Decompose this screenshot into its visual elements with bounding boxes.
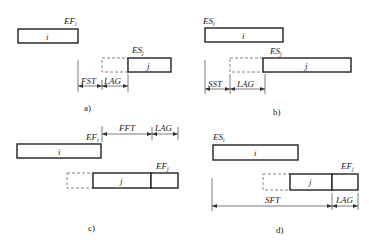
panel-a: i EFi j ESj FST LAG a) <box>18 16 171 113</box>
es-j-label: ESj <box>269 46 282 57</box>
caption-a: a) <box>84 103 91 113</box>
activity-j-shifted-outline <box>67 173 93 188</box>
lag-label: LAG <box>154 123 173 133</box>
lag-label: LAG <box>103 76 122 86</box>
panel-b: i ESi j ESj SST LAG b) <box>202 16 351 117</box>
caption-b: b) <box>273 107 281 117</box>
ef-i-label: EFi <box>63 16 77 27</box>
activity-j-shifted-outline <box>263 174 290 190</box>
sst-label: SST <box>208 79 223 89</box>
caption-d: d) <box>276 225 284 235</box>
activity-j-label: j <box>146 61 150 71</box>
activity-j-lag-segment <box>332 174 358 190</box>
ef-j-label: EFj <box>340 161 354 172</box>
ef-i-label: EFi <box>85 132 99 143</box>
panel-c: FFT LAG i EFi j EFj c) <box>17 123 178 233</box>
lag-label: LAG <box>335 195 354 205</box>
caption-c: c) <box>88 223 95 233</box>
activity-j-label: j <box>308 177 312 187</box>
sft-label: SFT <box>265 195 281 205</box>
es-i-label: ESi <box>212 132 225 143</box>
activity-j-shifted-outline <box>230 58 263 72</box>
ef-j-label: EFj <box>155 161 169 172</box>
fst-label: FST <box>80 76 97 86</box>
activity-j-shifted-outline <box>102 58 128 72</box>
activity-j-lag-segment <box>151 173 178 188</box>
activity-j-label: j <box>119 176 123 186</box>
fft-label: FFT <box>118 123 136 133</box>
lag-label: LAG <box>236 79 255 89</box>
lag-relationship-diagram: i EFi j ESj FST LAG a) i ESi j ESj SST L… <box>0 0 369 243</box>
es-i-label: ESi <box>202 16 215 27</box>
activity-j-label: j <box>304 61 308 71</box>
panel-d: i ESi j EFj SFT LAG d) <box>212 132 358 235</box>
es-j-label: ESj <box>131 45 144 56</box>
